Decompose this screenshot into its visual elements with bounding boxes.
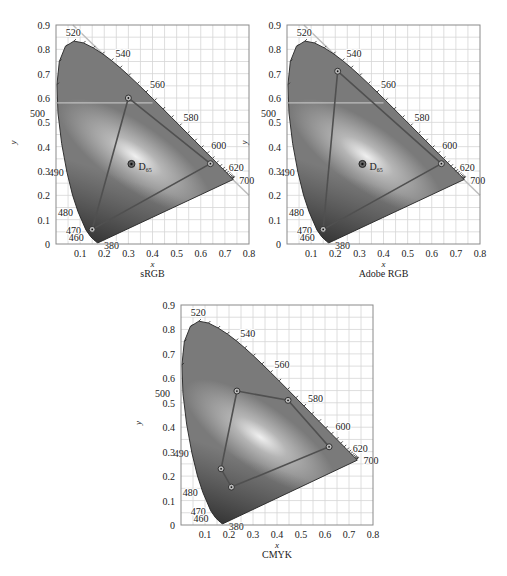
wavelength-label: 480 — [183, 487, 198, 498]
chart-srgb: D655205405605806006207005004904804704603… — [8, 20, 255, 279]
y-tick-label: 0.6 — [269, 93, 282, 104]
y-tick-label: 0.4 — [269, 142, 282, 153]
wavelength-label: 460 — [300, 232, 315, 243]
y-tick-label: 0.2 — [38, 190, 51, 201]
x-tick-label: 0.5 — [401, 248, 414, 259]
x-tick-label: 0.4 — [271, 529, 284, 540]
x-tick-label: 0.6 — [319, 529, 332, 540]
wavelength-label: 700 — [470, 175, 485, 186]
wavelength-label: 580 — [308, 393, 323, 404]
x-tick-label: 0.6 — [195, 248, 208, 259]
y-tick-label: 0.2 — [163, 471, 176, 482]
wavelength-label: 520 — [191, 307, 206, 318]
y-tick-label: 0.2 — [269, 190, 282, 201]
wavelength-label: 540 — [346, 48, 361, 59]
y-tick-label: 0.6 — [163, 373, 176, 384]
wavelength-label: 480 — [58, 207, 73, 218]
y-tick-label: 0.7 — [163, 349, 176, 360]
y-tick-label: 0.8 — [269, 44, 282, 55]
chart-title: Adobe RGB — [359, 268, 409, 279]
wavelength-label: 560 — [275, 359, 290, 370]
x-tick-label: 0.4 — [146, 248, 159, 259]
wavelength-label: 600 — [335, 421, 350, 432]
y-tick-label: 0 — [45, 239, 50, 250]
chart-title: CMYK — [262, 549, 293, 560]
wavelength-label: 700 — [363, 455, 378, 466]
y-tick-label: 0.3 — [163, 447, 176, 458]
x-tick-label: 0.5 — [295, 529, 308, 540]
wavelength-label: 520 — [66, 27, 81, 38]
y-tick-label: 0.9 — [163, 300, 176, 311]
x-tick-label: 0.1 — [199, 529, 212, 540]
x-tick-label: 0.8 — [367, 529, 380, 540]
wavelength-label: 620 — [460, 162, 475, 173]
chart-adobe-rgb: D655205405605806006207005004904804704603… — [239, 20, 486, 279]
figure-svg: D655205405605806006207005004904804704603… — [0, 0, 507, 576]
wavelength-label: 620 — [229, 162, 244, 173]
x-tick-label: 0.7 — [450, 248, 463, 259]
y-axis-label: y — [8, 141, 18, 146]
x-tick-label: 0.5 — [170, 248, 183, 259]
y-tick-label: 0 — [170, 520, 175, 531]
y-tick-label: 0.3 — [269, 166, 282, 177]
x-tick-label: 0.8 — [243, 248, 256, 259]
y-tick-label: 0.8 — [163, 324, 176, 335]
y-tick-label: 0.6 — [38, 93, 51, 104]
wavelength-label: 480 — [289, 207, 304, 218]
y-tick-label: 0.8 — [38, 44, 51, 55]
wavelength-label: 600 — [442, 140, 457, 151]
wavelength-label: 580 — [415, 112, 430, 123]
x-tick-label: 0.7 — [343, 529, 356, 540]
x-tick-label: 0.6 — [426, 248, 439, 259]
y-tick-label: 0.9 — [269, 20, 282, 31]
x-tick-label: 0.3 — [122, 248, 135, 259]
x-tick-label: 0.1 — [74, 248, 87, 259]
wavelength-label: 600 — [211, 140, 226, 151]
y-tick-label: 0.9 — [38, 20, 51, 31]
wavelength-label: 520 — [297, 27, 312, 38]
wavelength-label: 540 — [115, 48, 130, 59]
y-tick-label: 0.5 — [163, 398, 176, 409]
y-tick-label: 0.1 — [163, 496, 176, 507]
x-tick-label: 0.2 — [98, 248, 111, 259]
wavelength-label: 540 — [240, 328, 255, 339]
x-tick-label: 0.7 — [219, 248, 232, 259]
y-tick-label: 0.5 — [269, 117, 282, 128]
wavelength-label: 620 — [353, 443, 368, 454]
x-tick-label: 0.4 — [377, 248, 390, 259]
x-tick-label: 0.3 — [353, 248, 366, 259]
chart-cmyk: 5205405605806006207005004904804704603800… — [133, 300, 379, 560]
wavelength-label: 560 — [381, 79, 396, 90]
wavelength-label: 580 — [184, 112, 199, 123]
y-tick-label: 0 — [276, 239, 281, 250]
y-tick-label: 0.4 — [38, 142, 51, 153]
y-tick-label: 0.3 — [38, 166, 51, 177]
y-tick-label: 0.4 — [163, 422, 176, 433]
x-tick-label: 0.1 — [305, 248, 318, 259]
x-tick-label: 0.8 — [474, 248, 487, 259]
y-tick-label: 0.7 — [38, 69, 51, 80]
wavelength-label: 460 — [194, 513, 209, 524]
wavelength-label: 700 — [239, 175, 254, 186]
y-tick-label: 0.1 — [269, 215, 282, 226]
wavelength-label: 560 — [150, 79, 165, 90]
y-axis-label: y — [133, 421, 143, 426]
wavelength-label: 460 — [69, 232, 84, 243]
y-axis-label: y — [239, 141, 249, 146]
x-tick-label: 0.2 — [223, 529, 236, 540]
y-tick-label: 0.7 — [269, 69, 282, 80]
x-tick-label: 0.3 — [247, 529, 260, 540]
x-tick-label: 0.2 — [329, 248, 342, 259]
y-tick-label: 0.1 — [38, 215, 51, 226]
y-tick-label: 0.5 — [38, 117, 51, 128]
chart-title: sRGB — [140, 268, 165, 279]
